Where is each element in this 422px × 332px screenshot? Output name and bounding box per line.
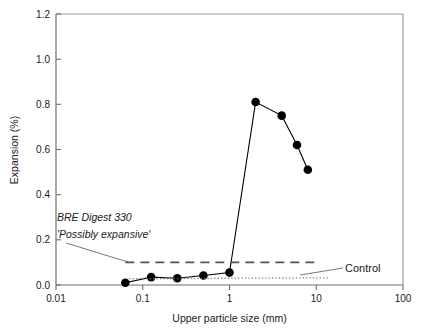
y-tick-label: 1.2 bbox=[36, 9, 50, 20]
data-point bbox=[147, 273, 156, 282]
series-line bbox=[125, 102, 308, 283]
y-tick-label: 0.4 bbox=[36, 189, 50, 200]
y-tick-label: 1.0 bbox=[36, 54, 50, 65]
control-leader-line bbox=[300, 268, 343, 275]
control-annotation: Control bbox=[300, 262, 380, 275]
data-point bbox=[251, 98, 260, 107]
data-point bbox=[225, 268, 234, 277]
x-axis-ticks bbox=[56, 285, 403, 290]
chart-figure: 0.0 0.2 0.4 0.6 0.8 1.0 1.2 0.01 0.1 1 1… bbox=[0, 0, 422, 332]
y-tick-label: 0.8 bbox=[36, 99, 50, 110]
data-point bbox=[199, 271, 208, 280]
plot-data-layer bbox=[121, 98, 329, 287]
x-tick-label: 1 bbox=[227, 293, 233, 304]
bre-annotation-line1: BRE Digest 330 bbox=[57, 211, 132, 223]
x-axis-tick-labels: 0.01 0.1 1 10 100 bbox=[46, 293, 412, 304]
x-tick-label: 100 bbox=[395, 293, 412, 304]
expansion-vs-particle-size-chart: 0.0 0.2 0.4 0.6 0.8 1.0 1.2 0.01 0.1 1 1… bbox=[0, 0, 422, 332]
bre-leader-line bbox=[66, 243, 128, 262]
x-tick-label: 10 bbox=[311, 293, 323, 304]
control-annotation-label: Control bbox=[345, 262, 380, 274]
y-axis-tick-labels: 0.0 0.2 0.4 0.6 0.8 1.0 1.2 bbox=[36, 9, 50, 291]
y-tick-label: 0.2 bbox=[36, 234, 50, 245]
axes-frame bbox=[56, 14, 403, 285]
x-tick-label: 0.1 bbox=[136, 293, 150, 304]
x-axis-title: Upper particle size (mm) bbox=[172, 312, 286, 324]
y-tick-label: 0.0 bbox=[36, 280, 50, 291]
series-expansion bbox=[121, 98, 312, 287]
data-point bbox=[277, 111, 286, 120]
data-point bbox=[304, 166, 313, 175]
y-axis-title: Expansion (%) bbox=[8, 116, 20, 184]
data-point bbox=[293, 141, 302, 150]
y-axis-ticks bbox=[56, 14, 61, 285]
y-tick-label: 0.6 bbox=[36, 144, 50, 155]
bre-digest-annotation: BRE Digest 330 'Possibly expansive' bbox=[57, 211, 151, 262]
data-point bbox=[121, 278, 130, 287]
x-tick-label: 0.01 bbox=[46, 293, 66, 304]
bre-annotation-line2: 'Possibly expansive' bbox=[57, 228, 151, 240]
